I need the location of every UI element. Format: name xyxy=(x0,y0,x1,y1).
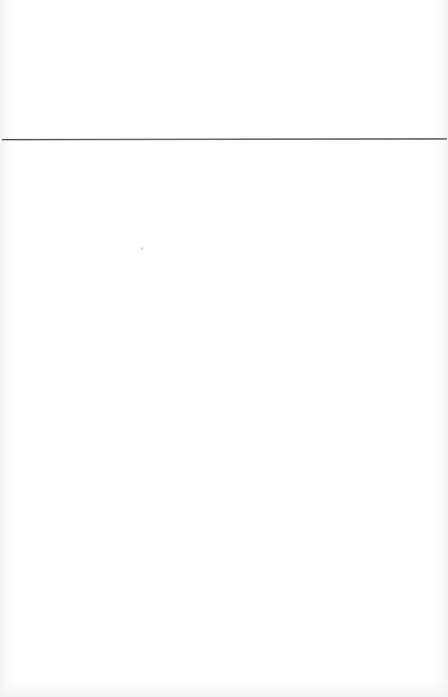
horizontal-rule xyxy=(2,138,447,140)
body-text xyxy=(0,141,1,142)
body-area xyxy=(0,141,448,697)
header-area xyxy=(0,0,448,138)
paper-speck xyxy=(141,247,143,250)
blank-page xyxy=(0,0,448,697)
header-text xyxy=(0,0,1,1)
